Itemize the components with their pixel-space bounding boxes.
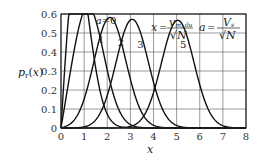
rice-distribution-chart: 012345678 00.10.20.30.40.50.6 a=01235 pr…: [0, 0, 260, 161]
svg-text:Vs: Vs: [223, 16, 234, 29]
x-tick-label: 7: [220, 131, 226, 142]
x-tick-label: 6: [197, 131, 203, 142]
x-tick-label: 0: [58, 131, 64, 142]
x-tick-label: 1: [81, 131, 87, 142]
curve-label-a=2: 2: [118, 37, 124, 48]
svg-text:√N: √N: [219, 29, 236, 42]
x-tick-label: 5: [173, 131, 179, 142]
x-tick-label: 4: [150, 131, 156, 142]
x-tick-label: 8: [243, 131, 249, 142]
curve-label-a=1: 1: [98, 34, 104, 45]
x-tick-labels: 012345678: [58, 131, 249, 142]
curve-label-a=0: a=0: [96, 15, 117, 26]
y-tick-label: 0.5: [41, 28, 57, 39]
y-tick-labels: 00.10.20.30.40.50.6: [41, 9, 57, 134]
svg-text:=: =: [207, 22, 215, 33]
svg-text:vm, ilu: vm, ilu: [169, 16, 193, 29]
x-tick-label: 3: [127, 131, 133, 142]
svg-text:=: =: [159, 22, 167, 33]
y-tick-label: 0.3: [41, 66, 57, 77]
y-axis-label: pr(x): [18, 66, 43, 80]
y-tick-label: 0.2: [41, 85, 57, 96]
x-axis-label: x: [147, 143, 154, 156]
svg-text:a: a: [199, 21, 206, 34]
curve-label-a=3: 3: [137, 39, 143, 50]
y-tick-label: 0.6: [41, 9, 57, 20]
y-tick-label: 0.1: [41, 104, 57, 115]
x-tick-label: 2: [104, 131, 110, 142]
y-tick-label: 0.4: [41, 47, 57, 58]
svg-text:x: x: [151, 21, 158, 34]
svg-text:√N: √N: [170, 29, 187, 42]
definition-annotation: x = vm, ilu √N a = Vs √N: [151, 16, 240, 42]
y-tick-label: 0: [51, 123, 57, 134]
